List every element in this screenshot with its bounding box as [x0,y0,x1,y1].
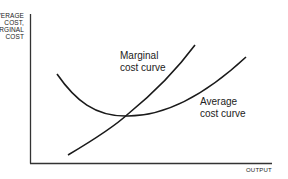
cost-curves-chart: AVERAGE COST, MARGINAL COST OUTPUT Margi… [0,0,288,179]
chart-canvas [0,0,288,179]
average-cost-label: Average cost curve [200,96,246,120]
x-axis-label: OUTPUT [246,167,272,173]
y-axis-label: AVERAGE COST, MARGINAL COST [0,12,24,40]
marginal-cost-label: Marginal cost curve [120,50,166,74]
